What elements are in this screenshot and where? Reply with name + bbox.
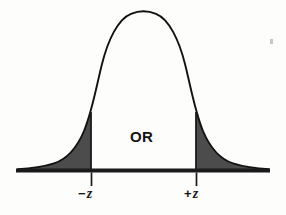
right-z-variable: z bbox=[192, 186, 199, 201]
left-critical-value-label: −z bbox=[78, 186, 92, 202]
bell-curve bbox=[18, 11, 269, 169]
scan-artifact-speck bbox=[270, 39, 273, 44]
plus-sign: + bbox=[184, 186, 192, 201]
normal-curve-figure: OR −z +z bbox=[0, 0, 286, 215]
normal-curve-svg bbox=[0, 0, 286, 215]
left-z-variable: z bbox=[86, 186, 93, 201]
right-critical-value-label: +z bbox=[184, 186, 198, 202]
center-region-label: OR bbox=[130, 128, 153, 145]
minus-sign: − bbox=[78, 186, 86, 201]
